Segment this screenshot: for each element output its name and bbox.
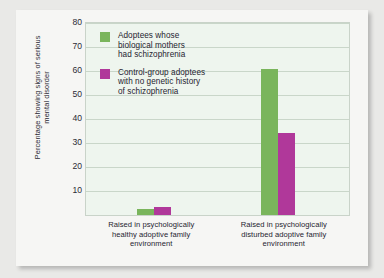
legend-swatch-icon-1 bbox=[100, 69, 110, 79]
y-tick-label-80: 80 bbox=[72, 18, 82, 27]
legend-swatch-icon-0 bbox=[100, 32, 110, 42]
legend-label-1: Control-group adopteeswith no genetic hi… bbox=[118, 68, 205, 97]
legend-label-0: Adoptees whosebiological mothershad schi… bbox=[118, 31, 185, 60]
y-tick-label-50: 50 bbox=[72, 90, 82, 99]
plot-area: Adoptees whosebiological mothershad schi… bbox=[85, 22, 350, 216]
y-axis-title: Percentage showing signs of serious ment… bbox=[33, 27, 52, 167]
bar-group0-series0 bbox=[137, 209, 154, 215]
chart-figure-panel: Percentage showing signs of serious ment… bbox=[16, 10, 368, 266]
y-tick-label-40: 40 bbox=[72, 114, 82, 123]
x-axis-tick-labels: Raised in psychologicallyhealthy adoptiv… bbox=[85, 220, 350, 249]
legend-item-0: Adoptees whosebiological mothershad schi… bbox=[100, 31, 305, 60]
y-tick-label-70: 70 bbox=[72, 42, 82, 51]
bar-group1-series1 bbox=[278, 133, 295, 215]
x-tick-label-1: Raised in psychologicallydisturbed adopt… bbox=[218, 220, 351, 249]
y-tick-label-10: 10 bbox=[72, 186, 82, 195]
bar-group1-series0 bbox=[261, 69, 278, 215]
bar-group0-series1 bbox=[154, 207, 171, 215]
y-axis-tick-labels: 8070605040302010 bbox=[56, 10, 82, 266]
x-tick-label-0: Raised in psychologicallyhealthy adoptiv… bbox=[85, 220, 218, 249]
bar-group-disturbed-environment bbox=[246, 69, 310, 215]
y-tick-label-30: 30 bbox=[72, 138, 82, 147]
y-tick-label-60: 60 bbox=[72, 66, 82, 75]
bar-group-healthy-environment bbox=[122, 207, 186, 215]
gridline-80 bbox=[86, 23, 349, 24]
y-tick-label-20: 20 bbox=[72, 162, 82, 171]
